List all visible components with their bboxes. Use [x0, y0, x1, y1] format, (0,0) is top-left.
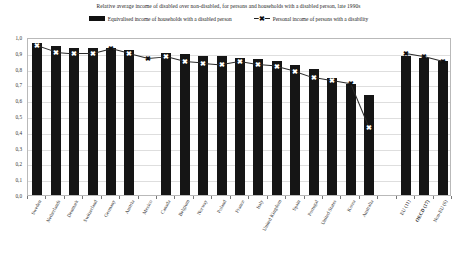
y-axis-tick-label: 0,0: [16, 193, 22, 199]
x-axis-label-germany: Germany: [103, 199, 116, 218]
x-axis-tick: [359, 196, 360, 199]
bar-austria: [124, 50, 134, 195]
x-axis-label-united-states: United States: [320, 199, 337, 226]
x-axis-tick: [340, 196, 341, 199]
x-axis: SwedenNetherlandsDenmarkSwitzerlandGerma…: [27, 196, 451, 254]
y-axis-tick-label: 0,6: [16, 98, 22, 104]
legend-bar-swatch-icon: [89, 16, 105, 21]
y-axis-tick-label: 0,3: [16, 146, 22, 152]
x-axis-label-italy: Italy: [255, 199, 264, 210]
y-axis-tick-label: 0,2: [16, 161, 22, 167]
bar-united-kingdom: [272, 61, 282, 195]
x-axis-tick: [174, 196, 175, 199]
x-axis-label-united-kingdom: United Kingdom: [262, 199, 283, 232]
y-axis-tick-label: 0,1: [16, 177, 22, 183]
y-axis-tick-label: 0,7: [16, 82, 22, 88]
bars-layer: [28, 39, 450, 195]
x-axis-label-norway: Norway: [197, 199, 209, 216]
bar-belgium: [180, 54, 190, 195]
legend-bar-label: Equivalised income of households with a …: [108, 16, 232, 22]
x-axis-label-austria: Austria: [123, 199, 134, 215]
x-axis-label-oecd-17: OECD (17): [414, 199, 430, 223]
x-axis-tick: [138, 196, 139, 199]
x-axis-label-portugal: Portugal: [307, 199, 320, 217]
y-axis-tick-label: 0,4: [16, 130, 22, 136]
x-axis-label-canada: Canada: [160, 199, 172, 215]
x-axis-label-non-eu-6: Non-EU (6): [432, 199, 448, 223]
plot-area: ✖✖✖✖✖✖✖✖✖✖✖✖✖✖✖✖✖✖✖✖✖✖: [27, 38, 451, 196]
bar-germany: [106, 48, 116, 195]
bar-denmark: [69, 48, 79, 195]
x-axis-tick: [45, 196, 46, 199]
x-axis-label-belgium: Belgium: [178, 199, 191, 217]
x-axis-label-eu-11: EU (11): [399, 199, 411, 216]
x-axis-label-mexico: Mexico: [142, 199, 154, 215]
x-axis-label-poland: Poland: [216, 199, 227, 214]
bar-france: [235, 58, 245, 195]
bar-portugal: [309, 69, 319, 195]
legend-entry-line: ✖ Personal income of persons with a disa…: [254, 15, 369, 22]
bar-united-states: [327, 78, 337, 195]
x-axis-tick: [396, 196, 397, 199]
y-axis: 1,00,90,80,70,60,50,40,30,20,10,0: [0, 38, 25, 196]
chart-legend: Equivalised income of households with a …: [0, 15, 457, 22]
x-axis-tick: [304, 196, 305, 199]
x-axis-tick: [64, 196, 65, 199]
legend-cross-marker-icon: ✖: [258, 15, 265, 22]
x-axis-label-netherlands: Netherlands: [45, 199, 61, 223]
bar-korea: [346, 84, 356, 195]
x-axis-tick: [285, 196, 286, 199]
bar-australia: [364, 95, 374, 195]
legend-line-label: Personal income of persons with a disabi…: [273, 16, 369, 22]
x-axis-tick: [156, 196, 157, 199]
x-axis-tick: [267, 196, 268, 199]
x-axis-tick: [101, 196, 102, 199]
x-axis-tick: [433, 196, 434, 199]
x-axis-tick: [414, 196, 415, 199]
x-axis-tick: [193, 196, 194, 199]
x-axis-label-korea: Korea: [346, 199, 356, 212]
x-axis-tick: [322, 196, 323, 199]
x-axis-tick: [82, 196, 83, 199]
bar-italy: [253, 59, 263, 195]
y-axis-tick-label: 0,9: [16, 51, 22, 57]
bar-netherlands: [51, 46, 61, 195]
y-axis-tick-label: 0,8: [16, 67, 22, 73]
x-axis-tick: [248, 196, 249, 199]
x-axis-tick: [377, 196, 378, 199]
x-axis-label-denmark: Denmark: [66, 199, 79, 218]
legend-line-swatch-icon: ✖: [254, 15, 270, 22]
y-axis-tick-label: 0,5: [16, 114, 22, 120]
bar-norway: [198, 56, 208, 195]
bar-poland: [217, 56, 227, 195]
x-axis-tick: [451, 196, 452, 199]
y-axis-tick-label: 1,0: [16, 35, 22, 41]
chart-root: Relative average income of disabled over…: [0, 0, 457, 254]
bar-oecd-17: [419, 58, 429, 195]
x-axis-tick: [27, 196, 28, 199]
bar-sweden: [32, 43, 42, 195]
bar-eu-11: [401, 56, 411, 195]
x-axis-label-spain: Spain: [291, 199, 301, 212]
legend-entry-bars: Equivalised income of households with a …: [89, 16, 232, 22]
bar-switzerland: [88, 48, 98, 195]
x-axis-label-france: France: [235, 199, 246, 214]
x-axis-label-sweden: Sweden: [31, 199, 43, 216]
x-axis-tick: [119, 196, 120, 199]
x-axis-label-australia: Australia: [361, 199, 374, 218]
x-axis-tick: [230, 196, 231, 199]
bar-canada: [161, 53, 171, 195]
chart-title: Relative average income of disabled over…: [0, 3, 457, 9]
x-axis-tick: [211, 196, 212, 199]
x-axis-label-switzerland: Switzerland: [82, 199, 98, 223]
bar-non-eu-6: [438, 61, 448, 195]
bar-spain: [290, 65, 300, 195]
